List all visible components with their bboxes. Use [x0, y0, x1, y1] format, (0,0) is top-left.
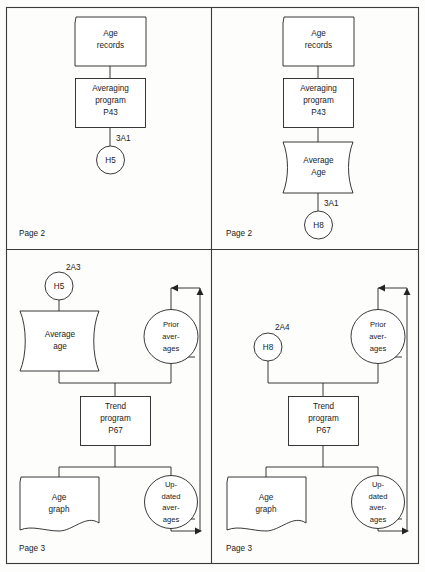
- page-label: Page 2: [226, 229, 252, 238]
- connector-ref-3a1: 3A1: [324, 199, 339, 208]
- node-label: aver-: [162, 503, 180, 512]
- node-label: Age: [103, 29, 118, 38]
- node-label: Averaging: [92, 84, 129, 93]
- node-age-graph-document[interactable]: Age graph: [227, 477, 306, 531]
- node-connector-h5[interactable]: H5: [97, 146, 125, 174]
- node-label: P67: [108, 426, 123, 435]
- node-label: program: [95, 96, 126, 105]
- node-averaging-program[interactable]: Averaging program P43: [76, 79, 146, 128]
- node-label: graph: [256, 505, 277, 514]
- node-connector-h5[interactable]: H5: [45, 272, 73, 300]
- node-trend-program[interactable]: Trend program P67: [289, 397, 359, 446]
- node-connector-h8[interactable]: H8: [305, 211, 333, 239]
- panel-top-left: Age records Averaging program P43 3A1 H5…: [19, 17, 146, 238]
- node-label: Age: [52, 493, 67, 502]
- node-label: Up-: [372, 480, 385, 489]
- node-label: Trend: [313, 402, 335, 411]
- node-label: P43: [311, 108, 326, 117]
- node-label: Prior: [163, 320, 180, 329]
- node-age-graph-document[interactable]: Age graph: [20, 477, 99, 531]
- node-label: H5: [105, 156, 116, 165]
- page-label: Page 3: [19, 544, 45, 553]
- node-label: dated: [368, 492, 387, 501]
- node-label: ages: [163, 515, 180, 524]
- node-trend-program[interactable]: Trend program P67: [81, 397, 151, 446]
- node-label: program: [303, 96, 334, 105]
- node-average-age-tape[interactable]: Average Age: [283, 142, 353, 193]
- node-updated-averages-drum[interactable]: Up- dated aver- ages: [145, 476, 198, 529]
- node-prior-averages-drum[interactable]: Prior aver- ages: [144, 310, 198, 364]
- node-label: Up-: [165, 480, 178, 489]
- node-updated-averages-drum[interactable]: Up- dated aver- ages: [352, 476, 405, 529]
- connector-ref-3a1: 3A1: [116, 134, 131, 143]
- panel-top-right: Age records Averaging program P43 Averag…: [226, 17, 354, 239]
- node-label: Average: [45, 330, 76, 339]
- flowchart-sheet: Age records Averaging program P43 3A1 H5…: [0, 0, 425, 572]
- node-label: age: [53, 342, 67, 351]
- node-label: Average: [303, 156, 334, 165]
- panel-bottom-left: 2A3 H5 Average age Prior aver- ages: [19, 263, 204, 553]
- node-label: aver-: [369, 503, 387, 512]
- node-label: ages: [370, 344, 387, 353]
- node-label: Prior: [370, 320, 387, 329]
- node-age-records[interactable]: Age records: [283, 17, 354, 66]
- node-prior-averages-drum[interactable]: Prior aver- ages: [351, 310, 405, 364]
- node-label: Averaging: [300, 84, 337, 93]
- node-label: Age: [311, 29, 326, 38]
- node-label: P43: [103, 108, 118, 117]
- node-label: program: [308, 414, 339, 423]
- node-connector-h8[interactable]: H8: [254, 333, 282, 361]
- connector-ref-2a4: 2A4: [275, 323, 290, 332]
- node-label: H5: [54, 282, 65, 291]
- node-label: P67: [316, 426, 331, 435]
- node-label: Trend: [105, 402, 127, 411]
- node-label: records: [97, 41, 124, 50]
- node-label: graph: [49, 505, 70, 514]
- node-averaging-program[interactable]: Averaging program P43: [284, 79, 354, 128]
- panel-bottom-right: 2A4 H8 Prior aver- ages Trend program P6…: [226, 285, 411, 554]
- connector-ref-2a3: 2A3: [66, 263, 81, 272]
- node-label: records: [305, 41, 332, 50]
- node-label: aver-: [162, 332, 180, 341]
- node-label: Age: [259, 493, 274, 502]
- node-label: H8: [313, 221, 324, 230]
- page-label: Page 2: [19, 229, 45, 238]
- node-label: aver-: [369, 332, 387, 341]
- node-label: H8: [263, 343, 274, 352]
- node-label: dated: [161, 492, 180, 501]
- node-average-age-tape[interactable]: Average age: [20, 311, 99, 371]
- page-label: Page 3: [226, 544, 252, 553]
- node-age-records[interactable]: Age records: [75, 17, 146, 66]
- node-label: ages: [163, 344, 180, 353]
- node-label: Age: [311, 168, 326, 177]
- node-label: program: [100, 414, 131, 423]
- node-label: ages: [370, 515, 387, 524]
